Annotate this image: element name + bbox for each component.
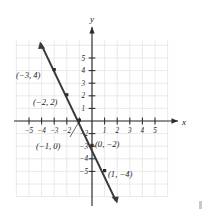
x-tick-label--5: −5 [25, 127, 34, 135]
axis-arrowheads [89, 27, 178, 124]
point-label--2-2: (−2, 2) [33, 97, 58, 107]
x-tick-label--4: −4 [37, 127, 46, 135]
point-label-1--4: (1, −4) [108, 169, 133, 179]
x-axis-arrow [172, 118, 179, 123]
point-label-0--2: (0, −2) [95, 139, 120, 149]
y-axis-arrow [89, 27, 94, 34]
x-tick-label--2: −2 [63, 127, 72, 135]
y-tick-labels: 5 4 3 2 1 −2 −3 −4 −5 [80, 55, 89, 176]
point-labels: (−3, 4) (−2, 2) (−1, 0) (0, −2) (1, −4) [16, 70, 133, 179]
y-tick-label-3: 3 [81, 80, 86, 88]
corner-artifact [199, 201, 202, 209]
y-tick-label--4: −4 [80, 155, 89, 163]
y-tick-label--3: −3 [80, 143, 89, 151]
data-point--1-0 [78, 119, 81, 122]
y-tick-label--5: −5 [80, 168, 89, 176]
x-tick-label-1: 1 [103, 127, 107, 135]
data-point--3-4 [53, 68, 56, 71]
x-tick-label-3: 3 [127, 127, 132, 135]
graph-canvas: −5 −4 −3 −2 1 2 3 4 5 5 4 3 2 1 −2 −3 −4… [0, 0, 204, 213]
x-tick-label--3: −3 [50, 127, 59, 135]
line-arrow-lower-right [112, 196, 119, 203]
point-label--1-0: (−1, 0) [36, 141, 61, 151]
axes [14, 27, 178, 206]
data-point--2-2 [65, 93, 68, 96]
x-tick-label-4: 4 [141, 127, 145, 135]
y-tick-label-5: 5 [82, 55, 86, 63]
y-tick-label-4: 4 [82, 67, 86, 75]
data-point-1--4 [103, 169, 106, 172]
y-tick-label-2: 2 [82, 92, 86, 100]
data-point-0--2 [90, 144, 93, 147]
point-label--3-4: (−3, 4) [16, 70, 41, 80]
x-axis-label: x [181, 117, 186, 127]
x-tick-label-2: 2 [115, 127, 119, 135]
y-tick-label-1: 1 [82, 105, 86, 113]
y-axis-label: y [89, 14, 94, 24]
coordinate-plane-figure: −5 −4 −3 −2 1 2 3 4 5 5 4 3 2 1 −2 −3 −4… [0, 0, 204, 213]
leader-line-x-intercept [70, 122, 79, 137]
x-tick-label-5: 5 [153, 127, 157, 135]
